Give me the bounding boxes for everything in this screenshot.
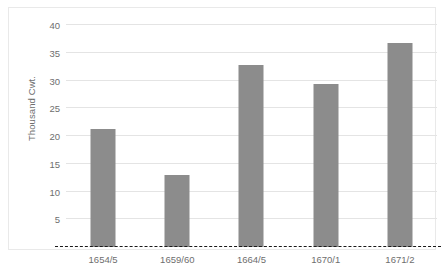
y-axis-tick-label: 10 xyxy=(49,186,60,197)
y-axis-tick-label: 30 xyxy=(49,75,60,86)
bar xyxy=(91,129,116,247)
bar-group: 1659/60 xyxy=(140,25,214,247)
y-axis-title: Thousand Cwt. xyxy=(26,59,37,159)
bar-series: 1654/51659/601664/51670/11671/2 xyxy=(66,25,437,247)
bar xyxy=(165,175,190,247)
y-axis-tick-label: 25 xyxy=(49,103,60,114)
bar xyxy=(387,43,412,247)
bar-group: 1671/2 xyxy=(363,25,437,247)
plot-area: 510152025303540 1654/51659/601664/51670/… xyxy=(66,25,437,247)
axis-baseline xyxy=(55,246,441,247)
bar-group: 1670/1 xyxy=(289,25,363,247)
bar-group: 1654/5 xyxy=(66,25,140,247)
chart-frame: Thousand Cwt. 510152025303540 1654/51659… xyxy=(8,7,436,250)
bar xyxy=(313,84,338,247)
y-axis-tick-label: 5 xyxy=(55,214,60,225)
figure-container: Thousand Cwt. 510152025303540 1654/51659… xyxy=(0,0,446,273)
y-axis-tick-label: 35 xyxy=(49,47,60,58)
bar-group: 1664/5 xyxy=(214,25,288,247)
figure-caption xyxy=(8,258,438,273)
y-axis-tick-label: 40 xyxy=(49,20,60,31)
y-axis-tick-label: 15 xyxy=(49,158,60,169)
y-axis-tick-label: 20 xyxy=(49,131,60,142)
bar xyxy=(239,65,264,247)
